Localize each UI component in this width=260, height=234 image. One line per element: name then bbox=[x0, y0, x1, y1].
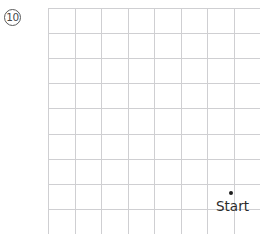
grid-line-horizontal bbox=[48, 33, 260, 34]
grid-line-vertical bbox=[75, 8, 76, 234]
grid-line-horizontal bbox=[48, 58, 260, 59]
grid-line-horizontal bbox=[48, 159, 260, 160]
worksheet-page: 10 Start bbox=[0, 0, 260, 234]
grid-line-vertical bbox=[154, 8, 155, 234]
problem-number-badge: 10 bbox=[4, 9, 21, 26]
grid-line-vertical bbox=[101, 8, 102, 234]
grid-line-vertical bbox=[128, 8, 129, 234]
start-point-label: Start bbox=[216, 200, 249, 214]
grid-line-horizontal bbox=[48, 8, 260, 9]
start-point-dot bbox=[229, 191, 233, 195]
grid-line-vertical bbox=[181, 8, 182, 234]
grid-line-vertical bbox=[207, 8, 208, 234]
grid-line-horizontal bbox=[48, 184, 260, 185]
grid-line-horizontal bbox=[48, 134, 260, 135]
grid-line-vertical bbox=[48, 8, 49, 234]
grid-line-horizontal bbox=[48, 108, 260, 109]
problem-number-label: 10 bbox=[6, 12, 18, 23]
grid-line-horizontal bbox=[48, 83, 260, 84]
